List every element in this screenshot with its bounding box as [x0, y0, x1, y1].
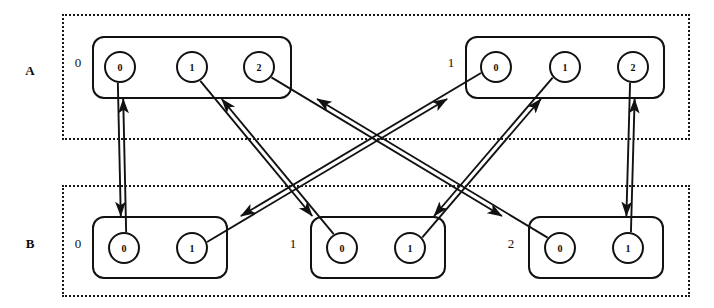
node-a1-2[interactable]: 2	[617, 51, 649, 83]
node-a0-1[interactable]: 1	[176, 51, 208, 83]
node-label: 2	[631, 62, 636, 73]
node-a1-1[interactable]: 1	[549, 51, 581, 83]
node-label: 2	[257, 62, 262, 73]
node-label: 0	[122, 243, 127, 254]
node-label: 0	[558, 243, 563, 254]
node-label: 1	[190, 243, 195, 254]
group-index-b1: 1	[285, 236, 301, 252]
group-index-b0: 0	[70, 236, 86, 252]
node-b2-0[interactable]: 0	[544, 232, 576, 264]
node-label: 0	[340, 243, 345, 254]
node-label: 1	[190, 62, 195, 73]
diagram-canvas: A 0 0 1 2 1 0 1 2 B 0 0 1 1 0 1 2 0 1	[0, 0, 714, 308]
layer-label-b: B	[18, 236, 42, 252]
node-a1-0[interactable]: 0	[480, 51, 512, 83]
node-b2-1[interactable]: 1	[612, 232, 644, 264]
node-label: 0	[118, 62, 123, 73]
node-a0-0[interactable]: 0	[104, 51, 136, 83]
group-index-a1: 1	[443, 55, 459, 71]
node-b1-0[interactable]: 0	[326, 232, 358, 264]
node-b0-1[interactable]: 1	[176, 232, 208, 264]
node-label: 1	[408, 243, 413, 254]
node-a0-2[interactable]: 2	[243, 51, 275, 83]
layer-label-a: A	[18, 63, 42, 79]
node-b0-0[interactable]: 0	[108, 232, 140, 264]
node-label: 0	[494, 62, 499, 73]
node-label: 1	[626, 243, 631, 254]
group-index-a0: 0	[70, 55, 86, 71]
group-index-b2: 2	[503, 236, 519, 252]
node-b1-1[interactable]: 1	[394, 232, 426, 264]
node-label: 1	[563, 62, 568, 73]
